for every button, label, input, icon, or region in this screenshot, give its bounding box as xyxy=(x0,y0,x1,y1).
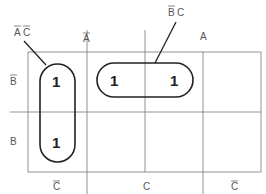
cell-r1c0: 1 xyxy=(52,134,60,151)
group-label-ac-a: A xyxy=(14,27,21,38)
label-b: B xyxy=(10,136,17,147)
cell-r0c1: 1 xyxy=(110,72,118,89)
label-not-c-right: C xyxy=(231,181,238,192)
label-not-c-left: C xyxy=(53,181,60,192)
cell-r0c2: 1 xyxy=(170,72,178,89)
label-a: A xyxy=(200,31,207,42)
leader-line-ac xyxy=(24,41,46,65)
group-label-bc-b: B xyxy=(168,7,175,18)
kmap-grid xyxy=(10,30,261,194)
cell-r0c0: 1 xyxy=(52,73,60,90)
karnaugh-map: A A B B C C C A C B C 1 1 1 1 xyxy=(0,0,266,194)
label-not-a: A xyxy=(83,33,90,44)
label-c: C xyxy=(143,181,150,192)
label-not-b: B xyxy=(10,76,17,87)
group-label-bc-c: C xyxy=(177,7,184,18)
group-label-ac-c: C xyxy=(23,27,30,38)
leader-line-bc xyxy=(155,22,176,63)
